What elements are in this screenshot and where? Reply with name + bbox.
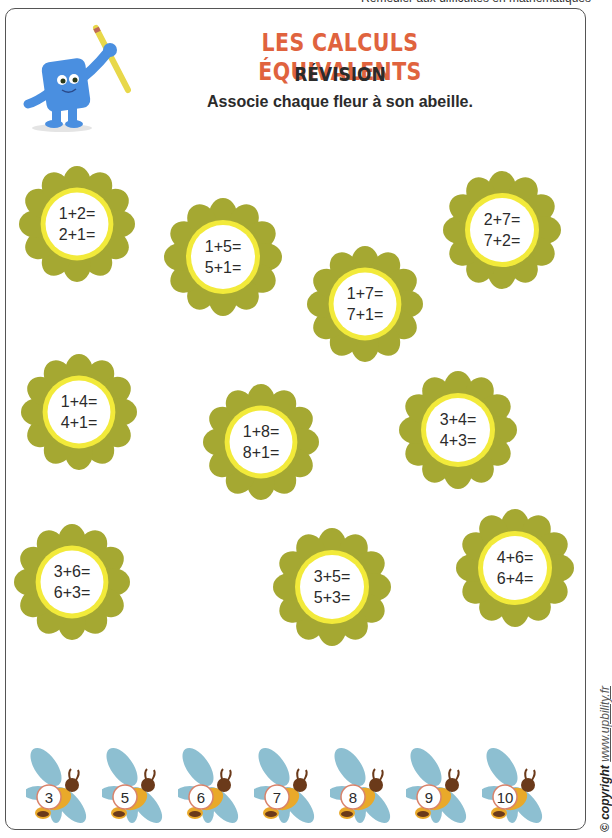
equation-line: 6+4= (497, 568, 533, 589)
bee-3[interactable]: 3 (26, 745, 96, 825)
equation-line: 1+8= (243, 421, 279, 442)
equation-line: 3+4= (440, 409, 476, 430)
equation-line: 4+6= (497, 547, 533, 568)
equation-line: 1+4= (61, 391, 97, 412)
copyright-label: © copyright (598, 765, 612, 832)
equation-line: 3+5= (314, 566, 350, 587)
bee-number: 5 (113, 785, 137, 809)
equation-line: 3+6= (54, 561, 90, 582)
equation-line: 6+3= (54, 582, 90, 603)
equation-line: 4+1= (61, 412, 97, 433)
equation-line: 1+7= (347, 283, 383, 304)
bee-number: 9 (417, 785, 441, 809)
top-caption: Remédier aux difficultés en mathématique… (361, 0, 591, 5)
flower-6[interactable]: 1+8=8+1= (202, 383, 320, 501)
bee-7[interactable]: 7 (254, 745, 324, 825)
equation-line: 2+7= (484, 209, 520, 230)
flower-7[interactable]: 3+4=4+3= (398, 370, 518, 490)
equation-line: 7+1= (347, 304, 383, 325)
bee-number: 3 (37, 785, 61, 809)
flower-3[interactable]: 1+7=7+1= (306, 245, 424, 363)
flower-2[interactable]: 1+5=5+1= (163, 197, 283, 317)
bee-9[interactable]: 9 (406, 745, 476, 825)
equation-line: 1+2= (59, 203, 95, 224)
equation-line: 5+3= (314, 587, 350, 608)
page-subtitle: RÉVISION (187, 62, 493, 86)
bee-number: 7 (265, 785, 289, 809)
flower-8[interactable]: 3+6=6+3= (13, 523, 131, 641)
flower-4[interactable]: 2+7=7+2= (442, 170, 562, 290)
mascot-icon (22, 22, 140, 134)
flower-10[interactable]: 4+6=6+4= (455, 508, 575, 628)
bee-6[interactable]: 6 (178, 745, 248, 825)
bee-10[interactable]: 10 (482, 745, 552, 825)
flower-5[interactable]: 1+4=4+1= (20, 353, 138, 471)
bee-5[interactable]: 5 (102, 745, 172, 825)
equation-line: 4+3= (440, 430, 476, 451)
equation-line: 2+1= (59, 224, 95, 245)
bee-number: 6 (189, 785, 213, 809)
bee-number: 10 (493, 785, 517, 809)
copyright-notice: © copyright www.upbility.fr (598, 686, 612, 832)
flower-1[interactable]: 1+2=2+1= (18, 165, 136, 283)
equation-line: 7+2= (484, 230, 520, 251)
equation-line: 1+5= (205, 236, 241, 257)
equation-line: 5+1= (205, 257, 241, 278)
copyright-link[interactable]: www.upbility.fr (598, 686, 612, 762)
flower-9[interactable]: 3+5=5+3= (272, 527, 392, 647)
equation-line: 8+1= (243, 442, 279, 463)
instruction-text: Associe chaque fleur à son abeille. (160, 93, 520, 111)
bee-number: 8 (341, 785, 365, 809)
bee-8[interactable]: 8 (330, 745, 400, 825)
